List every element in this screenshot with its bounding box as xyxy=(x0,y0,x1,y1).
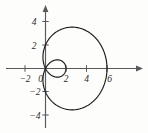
x-tick-label-neg2: −2 xyxy=(19,74,30,84)
x-tick-label-2: 2 xyxy=(64,74,69,84)
y-tick-label-4: 4 xyxy=(32,17,37,27)
polar-plot-figure: −2 0 2 4 6 4 2 −2 −4 xyxy=(0,0,148,133)
y-tick-label-2: 2 xyxy=(32,41,37,51)
y-tick-label-neg4: −4 xyxy=(29,111,40,121)
x-tick-label-4: 4 xyxy=(84,74,89,84)
x-tick-label-6: 6 xyxy=(107,74,112,84)
plot-canvas: −2 0 2 4 6 4 2 −2 −4 xyxy=(0,0,148,133)
x-tick-label-0: 0 xyxy=(38,74,43,84)
horizontal-axis-arrow-icon xyxy=(136,66,143,72)
vertical-axis-arrow-icon xyxy=(43,5,49,12)
y-tick-label-neg2: −2 xyxy=(29,87,40,97)
